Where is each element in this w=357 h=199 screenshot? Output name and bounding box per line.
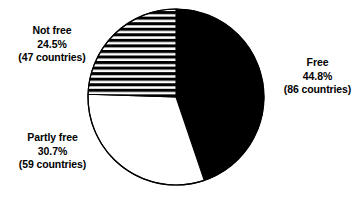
pie-label-free-percent: 44.8% [278,70,357,84]
pie-label-not-free-percent: 24.5% [6,38,98,52]
pie-label-free-name: Free [278,56,357,70]
pie-label-partly-free-count: (59 countries) [2,158,103,172]
pie-label-partly-free-percent: 30.7% [2,145,103,159]
pie-label-not-free: Not free 24.5% (47 countries) [6,24,98,65]
pie-label-not-free-count: (47 countries) [6,51,98,65]
pie-label-not-free-name: Not free [6,24,98,38]
pie-chart-figure: Not free 24.5% (47 countries) Free 44.8%… [0,0,357,199]
pie-label-free-count: (86 countries) [278,83,357,97]
pie-label-free: Free 44.8% (86 countries) [278,56,357,97]
pie-label-partly-free: Partly free 30.7% (59 countries) [2,131,103,172]
pie-label-partly-free-name: Partly free [2,131,103,145]
